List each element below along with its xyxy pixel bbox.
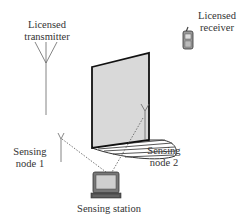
sensing-node-1-label: Sensing node 1 [10, 146, 50, 170]
node2-label-line2: node 2 [144, 157, 184, 169]
node2-label-line1: Sensing [144, 145, 184, 157]
receiver-label-line2: receiver [192, 22, 242, 34]
receiver-label-line1: Licensed [192, 10, 242, 22]
node1-label-line1: Sensing [10, 146, 50, 158]
transmitter-label-line2: transmitter [22, 31, 72, 43]
transmitter-antenna-icon [35, 42, 57, 115]
sensing-station-label: Sensing station [74, 203, 144, 215]
licensed-receiver-label: Licensed receiver [192, 10, 242, 34]
computer-icon [91, 172, 121, 198]
wall [92, 53, 149, 148]
sensing-node-2-label: Sensing node 2 [144, 145, 184, 169]
transmitter-label-line1: Licensed [22, 19, 72, 31]
node1-label-line2: node 1 [10, 158, 50, 170]
licensed-transmitter-label: Licensed transmitter [22, 19, 72, 43]
sensing-node-1-antenna-icon [58, 133, 64, 162]
